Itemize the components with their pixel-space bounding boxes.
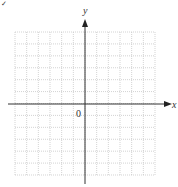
x-axis-label: x — [171, 99, 177, 110]
y-axis-arrow-icon — [82, 19, 88, 27]
coordinate-plane: x y 0 ✓ — [0, 0, 178, 187]
y-axis-label: y — [82, 5, 88, 16]
corner-mark: ✓ — [1, 0, 7, 8]
origin-label: 0 — [76, 108, 81, 119]
x-axis-arrow-icon — [164, 101, 172, 107]
